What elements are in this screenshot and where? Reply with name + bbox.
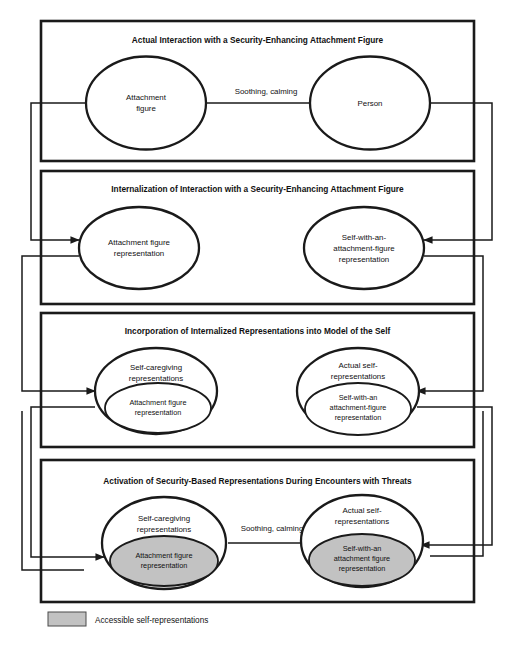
panel-3-left-inner-line-1: Attachment figure <box>129 398 186 407</box>
panel-3-left-node-line-2: representations <box>129 374 183 383</box>
panel-1-left-node-line-2: figure <box>136 104 156 113</box>
panel-1-title: Actual Interaction with a Security-Enhan… <box>132 35 384 45</box>
panel-1-left-node-line-1: Attachment <box>126 93 167 102</box>
panel-2-left-node[interactable]: Attachment figure representation <box>79 207 199 289</box>
panel-1-edge-label: Soothing, calming <box>235 87 298 96</box>
panel-3-left-inner-line-2: representation <box>135 408 182 417</box>
panel-4-right-inner-line-3: representation <box>339 564 386 573</box>
panel-1-left-node-ellipse[interactable] <box>86 57 206 150</box>
panel-1-right-node[interactable]: Person <box>310 57 430 150</box>
panel-3-title: Incorporation of Internalized Representa… <box>125 326 391 336</box>
panel-3-right-node[interactable]: Actual self- representations Self-with-a… <box>297 348 419 435</box>
panel-4-right-node-line-2: representations <box>335 517 389 526</box>
panel-4-title: Activation of Security-Based Representat… <box>103 476 412 486</box>
panel-4-left-inner-line-2: representation <box>141 561 188 570</box>
panel-1-right-node-line-1: Person <box>357 99 382 108</box>
panel-4-left-node[interactable]: Self-caregiving representations Attachme… <box>102 497 226 589</box>
panel-3-left-node-line-1: Self-caregiving <box>130 363 182 372</box>
diagram-background <box>0 0 515 645</box>
panel-1-left-node[interactable]: Attachment figure <box>86 57 206 150</box>
panel-2-title: Internalization of Interaction with a Se… <box>111 184 404 194</box>
panel-4-right-inner-line-1: Self-with-an <box>343 544 382 553</box>
panel-4-right-inner-line-2: attachment figure <box>334 554 390 563</box>
panel-3-right-node-line-1: Actual self- <box>338 361 377 370</box>
panel-2-right-node-line-3: representation <box>339 255 389 264</box>
panel-4-left-node-line-1: Self-caregiving <box>138 514 190 523</box>
panel-3-right-inner-node[interactable]: Self-with-an attachment-figure represent… <box>305 383 411 435</box>
panel-4-left-inner-node[interactable]: Attachment figure representation <box>110 536 218 586</box>
panel-3-right-inner-line-2: attachment-figure <box>330 403 387 412</box>
panel-2-left-node-line-1: Attachment figure <box>108 238 170 247</box>
legend-label: Accessible self-representations <box>95 616 208 625</box>
panel-2-right-node[interactable]: Self-with-an- attachment-figure represen… <box>304 207 424 289</box>
legend-swatch <box>48 612 86 626</box>
panel-4-left-node-line-2: representations <box>137 525 191 534</box>
panel-3-left-node[interactable]: Self-caregiving representations Attachme… <box>95 348 217 434</box>
panel-2-right-node-line-1: Self-with-an- <box>342 233 387 242</box>
panel-3-right-node-line-2: representations <box>331 372 385 381</box>
panel-4-right-node-line-1: Actual self- <box>342 506 381 515</box>
panel-4-edge-label: Soothing, calming <box>241 524 304 533</box>
panel-3-left-inner-node[interactable]: Attachment figure representation <box>105 383 211 433</box>
panel-4-right-node[interactable]: Actual self- representations Self-with-a… <box>301 495 423 587</box>
panel-4-right-inner-node[interactable]: Self-with-an attachment figure represent… <box>309 534 415 586</box>
attachment-security-flow-diagram: Actual Interaction with a Security-Enhan… <box>0 0 515 645</box>
panel-3-right-inner-line-3: representation <box>335 413 382 422</box>
panel-2-left-node-ellipse[interactable] <box>79 207 199 289</box>
panel-4-left-inner-line-1: Attachment figure <box>135 551 192 560</box>
panel-2-right-node-line-2: attachment-figure <box>333 244 395 253</box>
panel-2-left-node-line-2: representation <box>114 249 164 258</box>
panel-3-right-inner-line-1: Self-with-an <box>339 393 378 402</box>
